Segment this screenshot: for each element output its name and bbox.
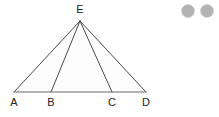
- vertex-label-E: E: [76, 3, 83, 15]
- gray-dot-2-icon[interactable]: [201, 5, 214, 18]
- vertex-label-C: C: [108, 96, 116, 108]
- vertex-label-A: A: [10, 96, 18, 108]
- gray-dot-1-icon[interactable]: [182, 5, 195, 18]
- geometry-figure: A B C D E: [0, 0, 219, 117]
- vertex-label-D: D: [142, 96, 150, 108]
- vertex-label-B: B: [47, 96, 54, 108]
- diagram-canvas: A B C D E: [0, 0, 219, 117]
